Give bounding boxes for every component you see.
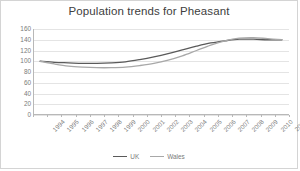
x-axis-tick [175, 115, 176, 117]
x-axis-tick-label: 1996 [80, 118, 95, 133]
x-axis-tick-label: 2009 [265, 118, 280, 133]
y-axis-tick-label: 60 [3, 80, 31, 86]
legend-swatch-icon [150, 156, 164, 158]
x-axis-tick [261, 115, 262, 117]
x-axis-tick-label: 1997 [94, 118, 109, 133]
x-axis-tick-label: 2011 [293, 118, 300, 133]
x-axis-tick-label: 2003 [179, 118, 194, 133]
chart-container: Population trends for Pheasant 160140120… [0, 0, 298, 169]
x-axis-tick [189, 115, 190, 117]
y-axis-tick-label: 40 [3, 91, 31, 97]
x-axis-tick [275, 115, 276, 117]
y-axis-tick-label: 120 [3, 48, 31, 54]
x-axis-tick-label: 2000 [137, 118, 152, 133]
x-axis-tick [76, 115, 77, 117]
x-axis-tick [47, 115, 48, 117]
legend-label: UK [130, 153, 139, 160]
x-axis-tick-label: 2001 [151, 118, 166, 133]
y-axis-tick-label: 100 [3, 58, 31, 64]
x-axis-labels: 1994199519961997199819992000200120022003… [33, 115, 289, 145]
chart-legend: UKWales [1, 153, 297, 160]
x-axis-tick-label: 1998 [108, 118, 123, 133]
y-axis-labels: 160140120100806040200 [1, 29, 31, 115]
x-axis-tick [33, 115, 34, 117]
x-axis-tick [90, 115, 91, 117]
x-axis-tick-label: 2010 [279, 118, 294, 133]
x-axis-tick [289, 115, 290, 117]
x-axis-tick-label: 1995 [65, 118, 80, 133]
legend-item-wales[interactable]: Wales [150, 153, 185, 160]
x-axis-tick [133, 115, 134, 117]
x-axis-tick [104, 115, 105, 117]
y-axis-tick-label: 140 [3, 37, 31, 43]
y-axis-tick-label: 20 [3, 101, 31, 107]
x-axis-tick-label: 2007 [236, 118, 251, 133]
y-axis-tick-label: 80 [3, 69, 31, 75]
legend-item-uk[interactable]: UK [113, 153, 139, 160]
x-axis-tick [218, 115, 219, 117]
series-line-uk [40, 39, 282, 63]
x-axis-tick [161, 115, 162, 117]
y-axis-tick-label: 160 [3, 26, 31, 32]
series-lines [33, 29, 289, 115]
x-axis-tick [118, 115, 119, 117]
legend-swatch-icon [113, 156, 127, 158]
chart-title: Population trends for Pheasant [1, 5, 297, 17]
x-axis-tick-label: 2002 [165, 118, 180, 133]
x-axis-tick [147, 115, 148, 117]
x-axis-tick-label: 2008 [250, 118, 265, 133]
x-axis-tick [232, 115, 233, 117]
plot-area [33, 29, 289, 115]
x-axis-tick [61, 115, 62, 117]
x-axis-tick-label: 2005 [208, 118, 223, 133]
legend-label: Wales [167, 153, 185, 160]
x-axis-tick-label: 1999 [122, 118, 137, 133]
x-axis-tick [204, 115, 205, 117]
x-axis-tick [246, 115, 247, 117]
x-axis-tick-label: 1994 [51, 118, 66, 133]
x-axis-tick-label: 2006 [222, 118, 237, 133]
x-axis-tick-label: 2004 [193, 118, 208, 133]
y-axis-tick-label: 0 [3, 112, 31, 118]
